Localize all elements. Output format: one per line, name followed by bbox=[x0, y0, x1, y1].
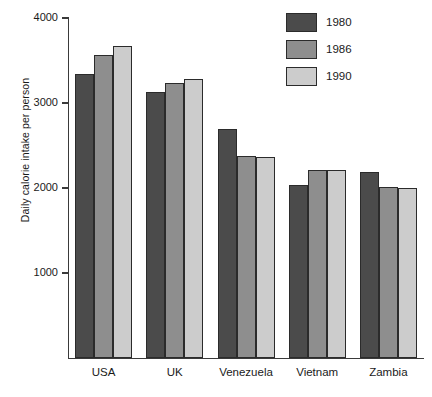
y-axis-tick-label: 3000 bbox=[20, 97, 58, 108]
legend-item-1986: 1986 bbox=[286, 39, 406, 64]
legend-label-1990: 1990 bbox=[326, 70, 352, 82]
y-axis-tick-label-text: 1000 bbox=[24, 267, 58, 278]
bar-group bbox=[218, 18, 275, 358]
y-axis-tick-label-text: 3000 bbox=[24, 97, 58, 108]
bar-venezuela-1986 bbox=[237, 156, 256, 358]
y-axis-tick-label: 4000 bbox=[20, 12, 58, 23]
bar-uk-1990 bbox=[184, 79, 203, 358]
legend-swatch-1980 bbox=[286, 13, 317, 32]
bar-chart: Daily calorie intake per person 10002000… bbox=[0, 0, 432, 397]
legend-swatch-1986 bbox=[286, 40, 317, 59]
y-axis-tick-label: 2000 bbox=[20, 182, 58, 193]
y-axis-tick-label: 1000 bbox=[20, 267, 58, 278]
y-axis-tick-label-text: 4000 bbox=[24, 12, 58, 23]
bar-usa-1986 bbox=[94, 55, 113, 358]
legend-label-1980: 1980 bbox=[326, 16, 352, 28]
bar-zambia-1990 bbox=[398, 188, 417, 358]
legend-item-1990: 1990 bbox=[286, 66, 406, 91]
bar-group bbox=[75, 18, 132, 358]
bar-zambia-1986 bbox=[379, 187, 398, 358]
bar-venezuela-1980 bbox=[218, 129, 237, 359]
y-axis-label: Daily calorie intake per person bbox=[16, 0, 34, 300]
legend: 198019861990 bbox=[286, 12, 406, 93]
bar-venezuela-1990 bbox=[256, 157, 275, 358]
bar-vietnam-1986 bbox=[308, 170, 327, 358]
legend-item-1980: 1980 bbox=[286, 12, 406, 37]
legend-label-1986: 1986 bbox=[326, 43, 352, 55]
y-axis-tick-label-text: 2000 bbox=[24, 182, 58, 193]
x-axis-line bbox=[68, 358, 424, 359]
bar-uk-1980 bbox=[146, 92, 165, 358]
bar-vietnam-1980 bbox=[289, 185, 308, 358]
bar-uk-1986 bbox=[165, 83, 184, 358]
bar-usa-1990 bbox=[113, 46, 132, 358]
bar-vietnam-1990 bbox=[327, 170, 346, 358]
x-axis-tick-label-zambia: Zambia bbox=[343, 366, 432, 378]
legend-swatch-1990 bbox=[286, 67, 317, 86]
bar-zambia-1980 bbox=[360, 172, 379, 358]
bar-group bbox=[146, 18, 203, 358]
bar-usa-1980 bbox=[75, 74, 94, 358]
